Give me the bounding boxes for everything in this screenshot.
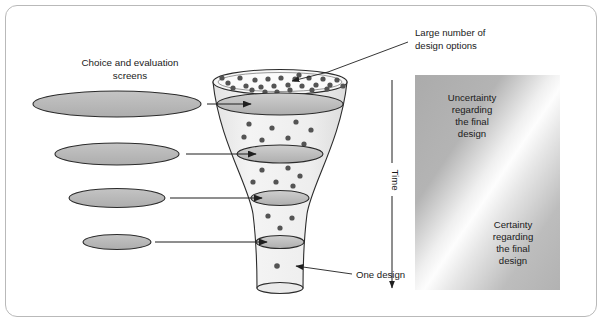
evaluation-screen-2 [55, 143, 179, 165]
choice-evaluation-screens [33, 91, 201, 250]
final-design-dot [274, 263, 280, 269]
callout-bottom-label: One design [356, 269, 405, 280]
time-axis: Time [390, 80, 401, 288]
evaluation-screen-3 [69, 189, 165, 208]
uncertainty-label-line1: Uncertainty [448, 92, 497, 103]
certainty-label-line2: regarding [493, 231, 534, 242]
callout-top-line1: Large number of [415, 27, 486, 38]
funnel-rim-inner [218, 73, 342, 92]
left-title: Choice and evaluation screens [82, 57, 179, 81]
figure-canvas: Uncertainty regarding the final design C… [0, 0, 605, 326]
certainty-label-line4: design [499, 255, 527, 266]
time-axis-label: Time [390, 170, 401, 191]
evaluation-screen-1 [33, 91, 201, 117]
uncertainty-label-line3: the final [455, 116, 489, 127]
callout-top-line2: design options [415, 40, 477, 51]
callout-one-design: One design [296, 266, 405, 280]
choice-screens-title-line2: screens [113, 70, 147, 81]
choice-screens-title-line1: Choice and evaluation [82, 57, 179, 68]
uncertainty-certainty-box: Uncertainty regarding the final design C… [415, 75, 560, 290]
uncertainty-label-line2: regarding [452, 104, 493, 115]
certainty-label-line3: the final [496, 243, 530, 254]
callout-arrow-bottom [296, 266, 352, 274]
funnel [213, 70, 347, 294]
funnel-outlet [257, 283, 303, 294]
uncertainty-label-line4: design [458, 128, 486, 139]
evaluation-screen-4 [83, 235, 151, 250]
design-funnel-diagram: Uncertainty regarding the final design C… [0, 0, 605, 326]
callout-leader-line-top [328, 42, 408, 72]
certainty-label-line1: Certainty [494, 219, 533, 230]
